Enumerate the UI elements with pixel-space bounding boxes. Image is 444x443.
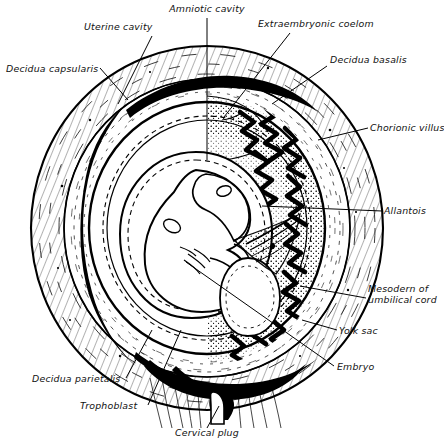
label-cervical-plug: Cervical plug: [175, 427, 239, 438]
label-yolk-sac: Yolk sac: [339, 325, 378, 336]
label-chorionic-villus: Chorionic villus: [370, 122, 444, 133]
label-decidua-basalis: Decidua basalis: [330, 54, 407, 65]
label-mesoderm-umbilical-cord-line1: Mesodern of: [368, 283, 430, 294]
label-uterine-cavity: Uterine cavity: [84, 21, 153, 32]
anatomical-figure: Amniotic cavity Uterine cavity Extraembr…: [0, 0, 444, 443]
label-decidua-capsularis: Decidua capsularis: [6, 63, 98, 74]
figure-canvas: Amniotic cavity Uterine cavity Extraembr…: [0, 0, 444, 443]
label-embryo: Embryo: [337, 361, 374, 372]
label-mesoderm-umbilical-cord-line2: umbilical cord: [368, 294, 437, 305]
label-extraembryonic-coelom: Extraembryonic coelom: [258, 18, 374, 29]
label-amniotic-cavity: Amniotic cavity: [168, 3, 245, 14]
label-allantois: Allantois: [383, 205, 426, 216]
label-decidua-parietalis: Decidua parietalis: [32, 373, 120, 384]
label-trophoblast: Trophoblast: [80, 400, 137, 411]
